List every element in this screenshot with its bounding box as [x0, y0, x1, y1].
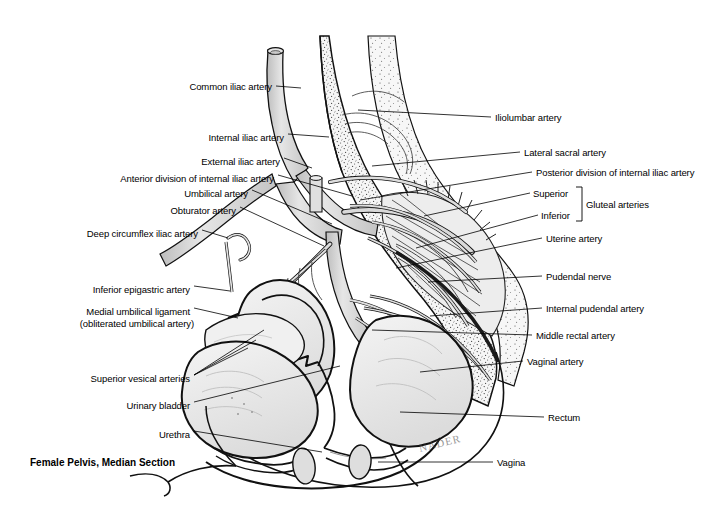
label-posterior-division: Posterior division of internal iliac art…	[536, 167, 694, 179]
label-medial-umbilical-ligament: Medial umbilical ligament	[86, 306, 190, 318]
label-external-iliac-artery: External iliac artery	[201, 156, 280, 168]
label-middle-rectal-artery: Middle rectal artery	[536, 330, 615, 342]
label-gluteal-inferior: Inferior	[541, 210, 570, 222]
label-inferior-epigastric: Inferior epigastric artery	[93, 284, 190, 296]
anatomy-illustration: NADER	[0, 0, 721, 516]
label-lateral-sacral-artery: Lateral sacral artery	[524, 147, 606, 159]
label-internal-iliac-artery: Internal iliac artery	[208, 132, 284, 144]
label-iliolumbar-artery: Iliolumbar artery	[495, 112, 561, 124]
label-urinary-bladder: Urinary bladder	[127, 400, 190, 412]
label-obturator-artery: Obturator artery	[171, 205, 236, 217]
label-anterior-division: Anterior division of internal iliac arte…	[120, 173, 274, 185]
label-deep-circumflex-iliac: Deep circumflex iliac artery	[87, 228, 198, 240]
label-vagina: Vagina	[497, 457, 525, 469]
label-gluteal-arteries: Gluteal arteries	[586, 199, 649, 211]
figure-canvas: NADER	[0, 0, 721, 516]
label-umbilical-artery: Umbilical artery	[184, 188, 248, 200]
label-rectum: Rectum	[548, 412, 580, 424]
label-common-iliac-artery: Common iliac artery	[189, 81, 272, 93]
figure-title: Female Pelvis, Median Section	[30, 457, 175, 468]
label-internal-pudendal-artery: Internal pudendal artery	[546, 303, 644, 315]
label-pudendal-nerve: Pudendal nerve	[546, 271, 611, 283]
label-medial-umbilical-ligament-sub: (obliterated umbilical artery)	[80, 318, 194, 330]
label-uterine-artery: Uterine artery	[546, 233, 602, 245]
label-gluteal-superior: Superior	[533, 188, 568, 200]
label-vaginal-artery: Vaginal artery	[527, 356, 584, 368]
label-urethra: Urethra	[159, 429, 190, 441]
label-superior-vesical-arteries: Superior vesical arteries	[91, 373, 190, 385]
